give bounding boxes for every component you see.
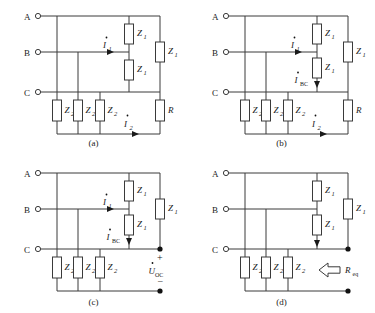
label-z2-3: Z xyxy=(108,105,114,115)
component-z1-right xyxy=(156,199,165,219)
terminal-b-ring xyxy=(35,206,40,211)
label-z1-lower-sub: 1 xyxy=(332,67,335,74)
arrow-ibc xyxy=(314,81,320,88)
phasor-dot-ibc xyxy=(109,229,111,231)
phasor-dot-ibc xyxy=(297,72,299,74)
figure-grid: Z 1 Z 1 Z 1 Z 2 Z 2 Z 2 R I xyxy=(0,0,375,313)
terminal-c-label: C xyxy=(212,245,218,255)
label-i1: I xyxy=(102,197,107,207)
terminal-c-ring xyxy=(35,246,40,251)
label-z1-right-sub: 1 xyxy=(175,208,178,215)
component-z2-2 xyxy=(74,100,83,121)
output-terminal-bottom xyxy=(345,288,350,293)
label-r: R xyxy=(167,105,174,115)
terminal-b-label: B xyxy=(24,205,30,215)
component-z1-right xyxy=(344,42,353,62)
label-z1-right: Z xyxy=(168,46,174,56)
label-z2-3: Z xyxy=(296,105,302,115)
label-z1-lower: Z xyxy=(137,64,143,74)
phasor-dot-i2 xyxy=(127,115,129,117)
label-z2-1: Z xyxy=(65,105,71,115)
component-r xyxy=(344,100,353,121)
output-terminal-top xyxy=(345,246,350,251)
label-z1-lower: Z xyxy=(325,219,331,229)
terminal-a-ring xyxy=(223,170,228,175)
component-z2-1 xyxy=(53,257,62,278)
panel-a: Z 1 Z 1 Z 1 Z 2 Z 2 Z 2 R I xyxy=(0,0,187,156)
label-i2: I xyxy=(123,119,128,129)
label-z1-upper-sub: 1 xyxy=(144,33,147,40)
label-r: R xyxy=(355,105,362,115)
label-z1-upper: Z xyxy=(325,28,331,38)
panel-b-caption: (b) xyxy=(188,138,375,148)
terminal-c-ring xyxy=(35,89,40,94)
component-z2-2 xyxy=(74,257,83,278)
terminal-a-label: A xyxy=(24,169,31,179)
terminal-b-label: B xyxy=(24,48,30,58)
terminal-a-ring xyxy=(35,13,40,18)
label-z2-3-sub: 2 xyxy=(114,267,118,274)
label-z1-upper-sub: 1 xyxy=(332,190,335,197)
label-z2-3-sub: 2 xyxy=(302,110,306,117)
component-z1-lower xyxy=(125,215,134,235)
output-terminal-negative xyxy=(157,288,162,293)
terminal-a-ring xyxy=(35,170,40,175)
component-z1-right xyxy=(344,199,353,219)
terminal-a-label: A xyxy=(212,169,219,179)
phasor-dot-i2 xyxy=(315,115,317,117)
component-z1-right xyxy=(156,42,165,62)
component-z2-3 xyxy=(284,100,293,121)
terminal-c-ring xyxy=(223,89,228,94)
label-z2-1: Z xyxy=(65,262,71,272)
label-z1-lower-sub: 1 xyxy=(144,69,147,76)
label-i2: I xyxy=(311,119,316,129)
component-z1-upper xyxy=(313,24,322,44)
polarity-plus: + xyxy=(157,252,163,263)
label-i1-sub: 1 xyxy=(297,45,300,52)
terminal-b-ring xyxy=(223,49,228,54)
panel-a-circuit: Z 1 Z 1 Z 1 Z 2 Z 2 Z 2 R I xyxy=(0,0,187,156)
label-z2-3: Z xyxy=(296,262,302,272)
arrow-i2 xyxy=(132,131,139,137)
arrow-ibc xyxy=(126,238,132,245)
terminal-a-label: A xyxy=(212,12,219,22)
terminal-b-label: B xyxy=(212,48,218,58)
panel-d: Z 1 Z 1 Z 1 Z 2 Z 2 Z 2 R eq xyxy=(188,157,375,313)
component-z2-1 xyxy=(241,100,250,121)
label-z1-upper: Z xyxy=(137,185,143,195)
terminal-b-ring xyxy=(223,206,228,211)
label-z2-3: Z xyxy=(108,262,114,272)
label-z1-lower-sub: 1 xyxy=(332,224,335,231)
panel-d-circuit: Z 1 Z 1 Z 1 Z 2 Z 2 Z 2 R eq xyxy=(188,157,375,313)
terminal-a-ring xyxy=(223,13,228,18)
panel-a-caption: (a) xyxy=(0,138,187,148)
label-z1-right-sub: 1 xyxy=(175,51,178,58)
label-z1-right: Z xyxy=(356,203,362,213)
phasor-dot-i1 xyxy=(294,37,296,39)
component-z2-1 xyxy=(241,257,250,278)
phasor-dot-i1 xyxy=(106,194,108,196)
terminal-a-label: A xyxy=(24,12,31,22)
label-ibc: I xyxy=(294,75,299,85)
component-z2-3 xyxy=(96,257,105,278)
label-z1-upper-sub: 1 xyxy=(332,33,335,40)
label-z1-right: Z xyxy=(168,203,174,213)
req-hollow-arrow-icon xyxy=(319,263,340,277)
phasor-dot-i1 xyxy=(106,37,108,39)
terminal-c-label: C xyxy=(24,245,30,255)
label-ibc-sub: BC xyxy=(300,81,308,87)
arrow-i2 xyxy=(320,131,327,137)
label-z2-2: Z xyxy=(274,105,280,115)
component-z1-upper xyxy=(125,181,134,201)
component-z1-upper xyxy=(125,24,134,44)
label-z1-right-sub: 1 xyxy=(363,208,366,215)
terminal-c-ring xyxy=(223,246,228,251)
component-z2-3 xyxy=(284,257,293,278)
label-z2-2: Z xyxy=(86,262,92,272)
phasor-dot-uoc xyxy=(152,262,154,264)
arrow-branch-direction xyxy=(314,240,320,247)
label-i1: I xyxy=(290,40,295,50)
label-i2-sub: 2 xyxy=(318,124,322,131)
label-z1-upper: Z xyxy=(137,28,143,38)
label-i2-sub: 2 xyxy=(130,124,134,131)
